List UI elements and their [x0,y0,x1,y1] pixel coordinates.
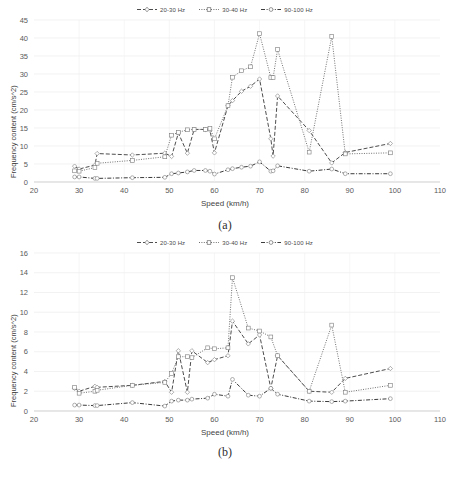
x-tick-label: 60 [210,415,218,424]
data-point-marker [190,356,194,360]
data-point-marker [269,386,273,390]
chart-panel-b: 20-30 Hz 30-40 Hz 90-100 Hz 024681012141… [0,233,450,445]
data-point-marker [226,354,230,358]
data-point-marker [185,398,189,402]
data-point-marker [206,346,210,350]
y-tick-label: 6 [24,347,28,356]
x-tick-label: 100 [389,415,402,424]
x-tick-label: 100 [389,186,402,195]
data-point-marker [190,397,194,401]
x-tick-label: 110 [434,186,446,195]
y-tick-label: 14 [20,268,28,277]
data-point-marker [204,169,208,173]
x-tick-label: 40 [120,415,128,424]
data-point-marker [170,372,174,376]
data-point-marker [176,171,180,175]
data-point-marker [231,276,235,280]
data-point-marker [95,151,99,155]
data-point-marker [77,169,81,173]
y-tick-label: 10 [20,142,28,151]
data-point-marker [271,154,275,158]
data-point-marker [176,398,180,402]
figure-container: 20-30 Hz 30-40 Hz 90-100 Hz 051015202530… [0,0,450,460]
data-point-marker [190,349,194,353]
y-tick-label: 5 [24,160,28,169]
x-tick-label: 50 [165,415,173,424]
data-point-marker [213,137,217,141]
y-tick-label: 16 [20,249,28,258]
data-point-marker [130,176,134,180]
x-tick-label: 20 [30,186,38,195]
data-point-marker [73,169,77,173]
x-tick-label: 20 [30,415,38,424]
data-point-marker [269,137,273,141]
x-tick-label: 80 [300,186,308,195]
data-point-marker [170,133,174,137]
x-tick-label: 70 [255,415,263,424]
data-point-marker [192,128,196,132]
y-tick-label: 45 [20,16,28,25]
data-point-marker [240,69,244,73]
data-point-marker [226,346,230,350]
y-axis-title-a: Frequency content (cm/s^2) [9,85,18,178]
data-point-marker [192,169,196,173]
data-point-marker [246,326,250,330]
y-axis-title-b: Frequency content (cm/s^2) [9,314,18,407]
data-point-marker [388,141,392,145]
data-point-marker [95,177,99,181]
data-point-marker [213,347,217,351]
data-point-marker [185,170,189,174]
data-point-marker [330,35,334,39]
x-tick-label: 30 [75,415,83,424]
data-point-marker [77,403,81,407]
chart-plot-a: 0510152025303540452030405060708090100110 [0,0,450,200]
x-axis-title-a: Speed (km/h) [0,199,450,208]
data-point-marker [73,175,77,179]
series-90-100-hz [73,160,393,180]
data-point-marker [77,175,81,179]
data-point-marker [276,48,280,52]
data-point-marker [95,404,99,408]
data-point-marker [213,392,217,396]
data-point-marker [213,172,217,176]
data-point-marker [170,172,174,176]
data-point-marker [95,161,99,165]
data-point-marker [343,152,347,156]
x-axis-title-b: Speed (km/h) [0,428,450,437]
data-point-marker [170,399,174,403]
data-point-marker [246,393,250,397]
x-tick-label: 110 [434,415,446,424]
y-tick-label: 35 [20,52,28,61]
data-point-marker [257,333,261,337]
data-point-marker [307,150,311,154]
data-point-marker [343,390,347,394]
data-point-marker [276,392,280,396]
data-point-marker [130,153,134,157]
data-point-marker [276,354,280,358]
data-point-marker [73,403,77,407]
data-point-marker [231,378,235,382]
data-point-marker [130,159,134,163]
chart-panel-a: 20-30 Hz 30-40 Hz 90-100 Hz 051015202530… [0,0,450,216]
data-point-marker [330,323,334,327]
data-point-marker [163,404,167,408]
y-tick-label: 15 [20,124,28,133]
data-point-marker [258,32,262,36]
data-point-marker [226,104,230,108]
x-tick-label: 50 [165,186,173,195]
data-point-marker [307,169,311,173]
data-point-marker [93,166,97,170]
data-point-marker [388,151,392,155]
data-point-marker [163,155,167,159]
data-point-marker [271,169,275,173]
data-point-marker [206,396,210,400]
data-point-marker [388,366,392,370]
y-tick-label: 40 [20,34,28,43]
data-point-marker [130,383,134,387]
data-point-marker [231,167,235,171]
data-point-marker [73,385,77,389]
data-point-marker [271,76,275,80]
y-tick-label: 0 [24,178,28,187]
x-tick-label: 70 [255,186,263,195]
data-point-marker [258,394,262,398]
